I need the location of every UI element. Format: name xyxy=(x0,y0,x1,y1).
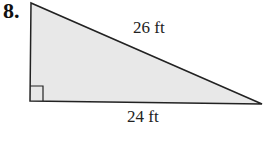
base-label: 24 ft xyxy=(127,107,159,127)
hypotenuse-label: 26 ft xyxy=(133,18,165,38)
problem-number: 8. xyxy=(3,0,20,24)
